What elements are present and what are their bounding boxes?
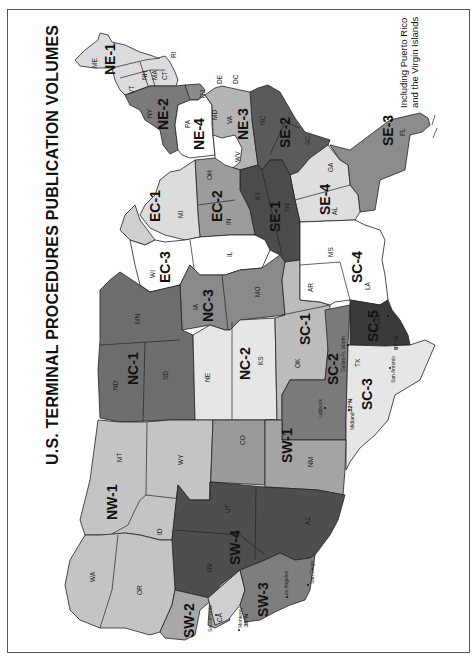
state-tx: TX <box>354 358 361 367</box>
meridian-36n: 36°N <box>243 614 249 627</box>
pr-vi-note-line1: Including Puerto Rico <box>398 17 409 108</box>
state-nv: NV <box>206 562 213 572</box>
state-wi: WI <box>149 270 156 278</box>
state-wv: WV <box>234 151 241 162</box>
state-nj: NJ <box>199 90 206 98</box>
state-ky: KY <box>254 191 261 200</box>
houston-dot <box>387 315 389 317</box>
state-mo: MO <box>254 287 261 297</box>
state-sc: SC <box>304 136 311 145</box>
dallas-dot <box>347 344 349 346</box>
pr-vi-note: Including Puerto Rico and the Virgin Isl… <box>398 17 420 108</box>
state-ca: CA <box>216 612 223 622</box>
state-in: IN <box>225 218 232 225</box>
label-ec-1: EC-1 <box>147 190 163 222</box>
label-sc-3: SC-3 <box>359 378 375 410</box>
city-sacramento: Sacramento <box>207 605 213 632</box>
meridian-32n: 32°N <box>347 399 353 412</box>
state-pa: PA <box>184 119 191 128</box>
map-title: U.S. TERMINAL PROCEDURES PUBLICATION VOL… <box>44 25 62 465</box>
state-ia: IA <box>192 303 199 310</box>
label-sw-4: SW-4 <box>227 530 243 565</box>
label-sc-4: SC-4 <box>349 251 365 283</box>
label-se-1: SE-1 <box>267 201 283 232</box>
state-dc: DC <box>232 74 239 84</box>
meridian-97w: 97°W <box>393 335 399 350</box>
state-nm: NM <box>307 457 314 467</box>
region-wa-or[interactable] <box>65 533 175 635</box>
state-or: OR <box>136 585 143 595</box>
label-ne-4: NE-4 <box>191 118 207 150</box>
state-ri: RI <box>170 51 177 58</box>
state-wa: WA <box>89 571 96 582</box>
state-de: DE <box>216 74 223 84</box>
state-id: ID <box>156 528 163 535</box>
monterey-dot <box>238 629 240 631</box>
label-sc-2: SC-2 <box>325 353 341 385</box>
region-nc-1[interactable] <box>98 272 195 422</box>
state-nc: NC <box>259 115 266 125</box>
state-mi: MI <box>177 211 184 218</box>
state-az: AZ <box>304 517 311 525</box>
label-sw-1: SW-1 <box>279 428 295 463</box>
state-ct: CT <box>161 71 168 80</box>
state-ok: OK <box>294 358 301 368</box>
state-nd: ND <box>112 380 119 390</box>
label-ec-3: EC-3 <box>157 251 173 283</box>
state-nh: NH <box>141 70 148 80</box>
state-la: LA <box>364 281 371 290</box>
state-ma: MA <box>151 70 158 80</box>
label-nc-2: NC-2 <box>237 347 253 380</box>
sacramento-dot <box>215 614 217 616</box>
label-sw-3: SW-3 <box>255 582 271 617</box>
city-san-diego: San Diego <box>309 560 315 584</box>
label-ne-2: NE-2 <box>155 98 171 130</box>
label-sw-2: SW-2 <box>181 603 197 638</box>
region-nc-2[interactable] <box>193 318 277 420</box>
state-tn: TN <box>284 203 291 212</box>
state-ks: KS <box>257 356 264 365</box>
state-vt: VT <box>128 86 135 94</box>
label-ec-2: EC-2 <box>209 190 225 222</box>
city-lubbock: Lubbock <box>317 399 323 418</box>
label-nc-1: NC-1 <box>125 352 141 385</box>
state-ut: UT <box>224 504 231 513</box>
state-md: MD <box>211 110 218 120</box>
city-houston: Houston <box>375 313 381 332</box>
state-va: VA <box>226 115 233 124</box>
label-se-2: SE-2 <box>277 117 293 148</box>
state-sd: SD <box>162 371 169 380</box>
state-ms: MS <box>327 247 334 257</box>
city-san-antonio: San Antonio <box>390 356 396 383</box>
state-wy: WY <box>177 454 184 465</box>
pr-vi-note-line2: and the Virgin Islands <box>409 17 420 108</box>
state-co: CO <box>239 435 246 445</box>
state-mn: MN <box>134 314 141 324</box>
state-ar: AR <box>307 283 314 292</box>
label-ne-3: NE-3 <box>235 108 251 140</box>
state-ne: NE <box>204 372 211 382</box>
label-se-3: SE-3 <box>380 115 396 146</box>
state-ga: GA <box>327 162 334 172</box>
city-los-angeles: Los Angeles <box>283 570 289 598</box>
label-nw-1: NW-1 <box>104 484 120 520</box>
state-al: AL <box>331 207 338 215</box>
state-mt: MT <box>116 453 123 462</box>
state-oh: OH <box>206 170 213 180</box>
label-nc-3: NC-3 <box>200 289 216 322</box>
state-me: ME <box>91 58 98 68</box>
city-dallas: Dallas-Ft. Worth <box>340 336 346 372</box>
label-ne-1: NE-1 <box>102 43 118 75</box>
lubbock-dot <box>324 407 326 409</box>
state-il: IL <box>226 251 233 257</box>
city-midland: Midland <box>349 412 355 430</box>
state-fl: FL <box>399 128 406 136</box>
state-ny: NY <box>146 108 153 118</box>
label-sc-1: SC-1 <box>297 313 313 345</box>
